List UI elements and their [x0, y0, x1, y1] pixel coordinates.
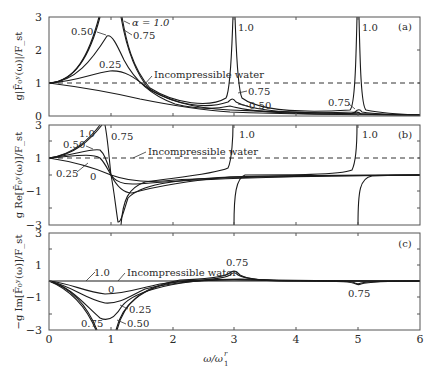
label-res3-0.75: 0.75 — [226, 257, 248, 268]
figure: 3 2 1 0 g|F̄₀ʸ(ω)|/F_st (a) α = 1.0 0.75… — [0, 0, 437, 378]
label-0.25: 0.25 — [129, 304, 151, 315]
label-res3-1.0: 1.0 — [239, 129, 255, 140]
label-0: 0 — [90, 171, 96, 182]
label-alpha-1.0: α = 1.0 — [132, 17, 170, 28]
label-0.75: 0.75 — [81, 318, 103, 329]
label-res5-1.0: 1.0 — [362, 129, 378, 140]
panel-a: 3 2 1 0 g|F̄₀ʸ(ω)|/F_st (a) α = 1.0 0.75… — [13, 11, 420, 123]
label-res3-0.75: 0.75 — [248, 86, 270, 97]
panel-b: 3 1 −1 −3 g Re[F̄₀ʸ(ω)]/F_st (b) 1.0 0.7… — [13, 119, 420, 232]
label-res5-1.0: 1.0 — [362, 22, 378, 33]
label-0: 0 — [108, 284, 114, 295]
panel-c-ytick-neg3: −3 — [26, 324, 42, 337]
panel-c-tag: (c) — [398, 238, 412, 249]
label-res5-0.75: 0.75 — [348, 288, 370, 299]
label-res3-0.50: 0.50 — [249, 100, 271, 111]
label-0.25: 0.25 — [99, 59, 121, 70]
panel-b-ytick-1: 1 — [35, 152, 42, 165]
panel-c-ytick-3: 3 — [35, 227, 42, 240]
label-0.75: 0.75 — [133, 30, 155, 41]
x-axis-label-sub: 1 — [224, 360, 228, 368]
label-0.50: 0.50 — [63, 139, 85, 150]
label-incompressible-water-a: Incompressible water — [154, 69, 264, 80]
panel-b-tag: (b) — [398, 129, 412, 140]
x-axis-label: ω/ω r 1 — [203, 350, 228, 368]
panel-c-ytick-1: 1 — [35, 259, 42, 272]
label-0.25: 0.25 — [56, 168, 78, 179]
xtick-4: 4 — [293, 333, 300, 346]
label-incompressible-water-c: Incompressible water — [127, 267, 237, 278]
panel-a-ytick-2: 2 — [35, 44, 42, 57]
x-axis-tick-labels: 0 1 2 3 4 5 6 — [46, 333, 424, 346]
xtick-1: 1 — [108, 333, 115, 346]
curve-alpha-0.50 — [49, 279, 420, 320]
panel-c-ytick-neg1: −1 — [26, 291, 42, 304]
label-incompressible-water-b: Incompressible water — [148, 146, 258, 157]
xtick-0: 0 — [46, 333, 53, 346]
label-1.0: 1.0 — [94, 267, 110, 278]
panel-a-ylabel: g|F̄₀ʸ(ω)|/F_st — [13, 32, 25, 101]
label-0.75: 0.75 — [111, 131, 133, 142]
panel-a-ytick-3: 3 — [35, 11, 42, 24]
xtick-5: 5 — [355, 333, 362, 346]
panel-b-ytick-3: 3 — [35, 119, 42, 132]
label-res3-1.0: 1.0 — [238, 22, 254, 33]
label-0.50: 0.50 — [127, 318, 149, 329]
panel-a-tag: (a) — [398, 21, 412, 32]
label-1.0: 1.0 — [79, 128, 95, 139]
label-0.50: 0.50 — [71, 26, 93, 37]
x-axis-label-sup: r — [224, 350, 228, 358]
panel-a-ytick-1: 1 — [35, 77, 42, 90]
panel-b-ytick-neg1: −1 — [26, 185, 42, 198]
panel-c-ylabel: −g Im[F̄₀ʸ(ω)]/F_st — [13, 235, 25, 330]
xtick-6: 6 — [417, 333, 424, 346]
label-res5-0.75: 0.75 — [328, 97, 350, 108]
xtick-3: 3 — [231, 333, 238, 346]
x-axis-label-main: ω/ω — [203, 353, 223, 364]
xtick-2: 2 — [170, 333, 177, 346]
panel-b-ylabel: g Re[F̄₀ʸ(ω)]/F_st — [13, 132, 25, 218]
panel-c: 3 1 −1 −3 −g Im[F̄₀ʸ(ω)]/F_st (c) 1.0 In… — [13, 227, 420, 337]
